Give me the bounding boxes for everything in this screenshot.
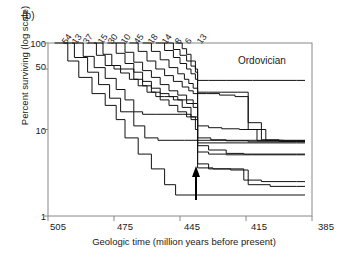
survivorship-curve-13 xyxy=(63,43,305,140)
plot-canvas xyxy=(0,0,345,257)
survivorship-curves xyxy=(55,43,305,195)
survivorship-curve-37 xyxy=(72,43,305,143)
survivorship-curve-54 xyxy=(55,43,305,195)
survivorship-curve-14 xyxy=(143,43,305,141)
survivorship-figure: (b) Percent surviving (log scale) Geolog… xyxy=(0,0,345,257)
